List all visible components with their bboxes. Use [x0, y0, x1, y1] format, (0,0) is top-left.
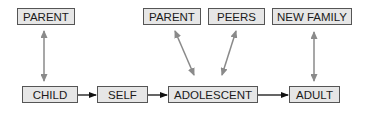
node-adult: ADULT — [289, 86, 340, 103]
node-child: CHILD — [22, 86, 78, 103]
development-diagram: PARENT PARENT PEERS NEW FAMILY CHILD SEL… — [0, 0, 367, 115]
arrow-parent-adolescent — [175, 31, 194, 75]
node-self: SELF — [97, 86, 148, 103]
node-adolescent: ADOLESCENT — [168, 86, 258, 103]
node-new-family: NEW FAMILY — [272, 8, 352, 25]
node-parent-mid: PARENT — [143, 8, 201, 25]
node-peers: PEERS — [208, 8, 265, 25]
node-parent-left: PARENT — [17, 8, 75, 25]
arrow-peers-adolescent — [222, 31, 236, 75]
